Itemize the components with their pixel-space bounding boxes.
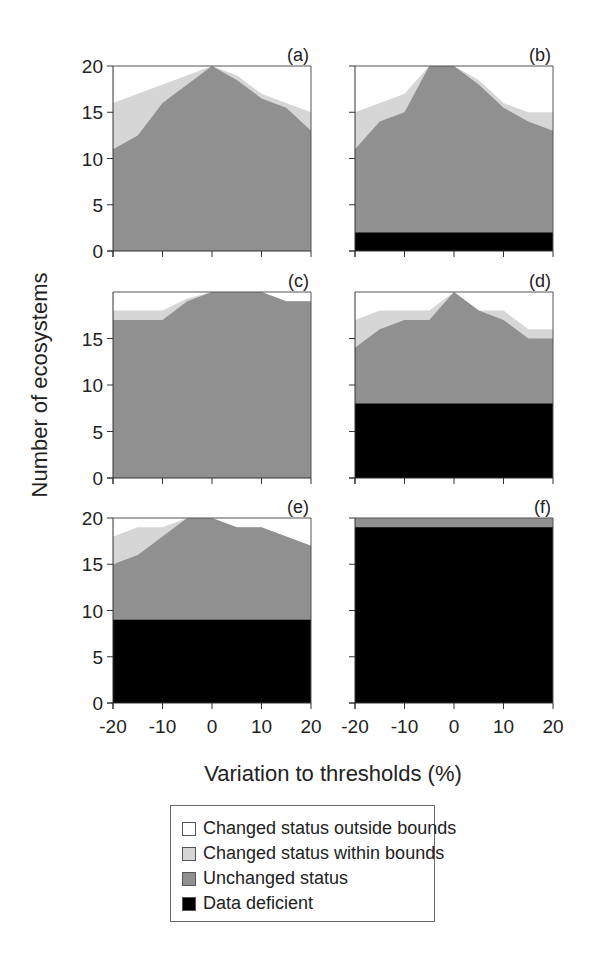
panel-label: (b) [529, 45, 551, 65]
y-tick-label: 15 [82, 329, 103, 350]
panel-d: (d) [349, 271, 553, 484]
legend-item-data-deficient: Data deficient [182, 891, 434, 916]
x-tick-label: -10 [149, 716, 176, 737]
panel-label: (c) [288, 271, 309, 291]
area-data-deficient [355, 233, 553, 252]
panel-e: 05101520-20-1001020(e) [82, 497, 322, 737]
y-tick-label: 10 [82, 375, 103, 396]
x-tick-label: 20 [300, 716, 321, 737]
y-tick-label: 10 [82, 601, 103, 622]
legend-item-outside-bounds: Changed status outside bounds [182, 816, 434, 841]
legend-label: Unchanged status [203, 868, 348, 889]
x-tick-label: 20 [542, 716, 563, 737]
swatch-within-bounds-icon [182, 847, 196, 861]
x-axis-label: Variation to thresholds (%) [204, 761, 462, 787]
swatch-outside-bounds-icon [182, 822, 196, 836]
y-tick-label: 20 [82, 508, 103, 529]
y-axis-label: Number of ecosystems [27, 273, 53, 498]
panel-label: (e) [287, 497, 309, 517]
swatch-data-deficient-icon [182, 897, 196, 911]
x-tick-label: 0 [207, 716, 218, 737]
area-unchanged [113, 292, 311, 478]
y-tick-label: 15 [82, 102, 103, 123]
y-tick-label: 5 [92, 422, 103, 443]
panel-c: 051015(c) [82, 271, 311, 489]
x-tick-label: -20 [341, 716, 368, 737]
area-data-deficient [355, 527, 553, 703]
panel-label: (f) [534, 497, 551, 517]
panel-a: 05101520(a) [82, 45, 311, 262]
y-tick-label: 15 [82, 554, 103, 575]
legend: Changed status outside bounds Changed st… [170, 805, 435, 922]
area-data-deficient [355, 404, 553, 478]
panel-b: (b) [349, 45, 553, 257]
y-tick-label: 5 [92, 195, 103, 216]
y-tick-label: 5 [92, 647, 103, 668]
legend-label: Changed status within bounds [203, 843, 444, 864]
y-tick-label: 20 [82, 56, 103, 77]
x-tick-label: 0 [449, 716, 460, 737]
x-tick-label: 10 [493, 716, 514, 737]
area-data-deficient [113, 620, 311, 703]
panel-f: -20-1001020(f) [341, 497, 563, 737]
legend-label: Data deficient [203, 893, 313, 914]
x-tick-label: 10 [251, 716, 272, 737]
x-tick-label: -10 [391, 716, 418, 737]
x-tick-label: -20 [99, 716, 126, 737]
y-tick-label: 0 [92, 468, 103, 489]
y-tick-label: 0 [92, 693, 103, 714]
y-tick-label: 10 [82, 149, 103, 170]
panel-label: (a) [287, 45, 309, 65]
y-tick-label: 0 [92, 241, 103, 262]
legend-label: Changed status outside bounds [203, 818, 456, 839]
legend-item-within-bounds: Changed status within bounds [182, 841, 434, 866]
figure: 05101520(a)(b)051015(c)(d)05101520-20-10… [0, 0, 591, 971]
panel-label: (d) [529, 271, 551, 291]
legend-item-unchanged: Unchanged status [182, 866, 434, 891]
swatch-unchanged-icon [182, 872, 196, 886]
